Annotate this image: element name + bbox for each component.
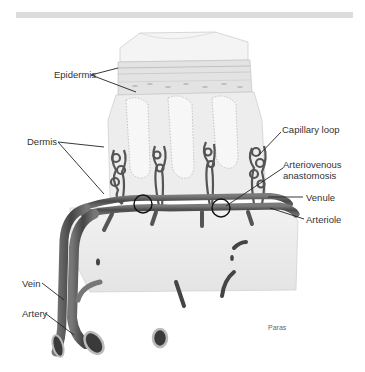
label-anastomosis: anastomosis [283,170,336,181]
subcutaneous-block [70,204,298,292]
label-vein: Vein [22,278,41,289]
label-artery: Artery [22,308,47,319]
label-dermis: Dermis [27,136,57,147]
dermis-layer [108,92,266,198]
label-arteriole: Arteriole [306,214,341,225]
label-epidermis: Epidermis [54,69,96,80]
epidermis-layer [118,32,252,95]
label-arteriovenous: Arteriovenous [283,159,342,170]
illustrator-credit: Paras [268,324,286,331]
skin-illustration [0,0,365,372]
label-venule: Venule [306,192,335,203]
label-capillary-loop: Capillary loop [282,124,340,135]
